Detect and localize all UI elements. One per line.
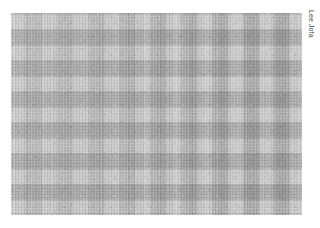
page-canvas: Lee Jofa — [0, 0, 320, 228]
brand-credit-label: Lee Jofa — [307, 10, 315, 38]
gingham-check-pattern — [11, 13, 302, 215]
brand-credit: Lee Jofa — [304, 10, 318, 56]
gingham-check-fabric-swatch — [11, 13, 302, 215]
